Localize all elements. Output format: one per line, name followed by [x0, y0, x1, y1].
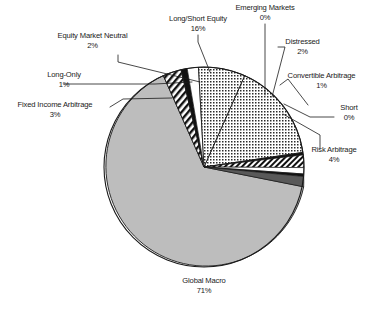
label-equity-market-neutral-text: Equity Market Neutral [58, 31, 128, 40]
label-emerging-markets: Emerging Markets 0% [215, 3, 315, 22]
label-short-pct: 0% [319, 113, 379, 123]
label-fixed-income-arbitrage-text: Fixed Income Arbitrage [18, 100, 93, 109]
label-equity-market-neutral-pct: 2% [0, 41, 185, 51]
label-global-macro-pct: 71% [144, 286, 264, 296]
label-risk-arbitrage-text: Risk Arbitrage [311, 145, 356, 154]
pie-chart: Equity Market Neutral 2% Long-Only 1% Fi… [0, 0, 381, 311]
label-global-macro-text: Global Macro [182, 276, 225, 285]
label-convertible-arbitrage-text: Convertible Arbitrage [288, 71, 356, 80]
label-long-only-pct: 1% [0, 80, 128, 90]
label-distressed-pct: 2% [255, 47, 350, 57]
label-long-only: Long-Only 1% [0, 70, 128, 89]
label-fixed-income-arbitrage-pct: 3% [0, 110, 110, 120]
label-short-text: Short [340, 103, 357, 112]
pie-slices [104, 67, 304, 267]
label-emerging-markets-pct: 0% [215, 13, 315, 23]
label-equity-market-neutral: Equity Market Neutral 2% [0, 31, 185, 50]
label-short: Short 0% [319, 103, 379, 122]
label-long-only-text: Long-Only [47, 70, 81, 79]
label-long-short-equity-pct: 16% [148, 24, 248, 34]
label-distressed: Distressed 2% [255, 37, 350, 56]
label-global-macro: Global Macro 71% [144, 276, 264, 295]
label-risk-arbitrage: Risk Arbitrage 4% [289, 145, 379, 164]
leader-long-short-equity [198, 35, 210, 72]
label-distressed-text: Distressed [285, 37, 319, 46]
label-convertible-arbitrage-pct: 1% [262, 81, 381, 91]
label-risk-arbitrage-pct: 4% [289, 155, 379, 165]
label-fixed-income-arbitrage: Fixed Income Arbitrage 3% [0, 100, 110, 119]
label-emerging-markets-text: Emerging Markets [235, 3, 294, 12]
label-convertible-arbitrage: Convertible Arbitrage 1% [262, 71, 381, 90]
